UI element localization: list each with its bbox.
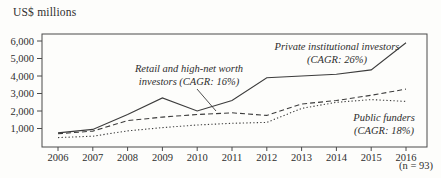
public-funders-series-label: Public funders (CAGR: 18%) [353,111,415,137]
x-tick-label: 2013 [291,152,312,163]
x-tick-label: 2012 [256,152,277,163]
chart-canvas: 1,0002,0003,0004,0005,0006,0002006200720… [0,0,441,178]
y-tick-label: 4,000 [10,71,34,82]
series-label-line: Private institutional investors [275,40,400,53]
x-tick-label: 2006 [48,152,69,163]
x-tick-label: 2009 [152,152,173,163]
series-label-line: investors (CAGR: 16%) [135,75,243,88]
series-label-line: (CAGR: 18%) [353,124,415,137]
x-tick-label: 2007 [82,152,103,163]
x-tick-label: 2014 [326,152,348,163]
y-tick-label: 3,000 [10,88,34,99]
x-tick-label: 2011 [222,152,243,163]
y-tick-label: 1,000 [10,123,34,134]
chart-figure: US$ millions 1,0002,0003,0004,0005,0006,… [0,0,441,178]
x-tick-label: 2010 [187,152,208,163]
y-tick-label: 5,000 [10,53,34,64]
series-label-line: Retail and high-net worth [135,62,243,75]
private-investors-series-label: Private institutional investors (CAGR: 2… [275,40,400,66]
y-tick-label: 2,000 [10,106,34,117]
x-tick-label: 2015 [361,152,382,163]
y-tick-label: 6,000 [10,36,34,47]
retail-investors-series-label: Retail and high-net worth investors (CAG… [135,62,243,88]
series-label-line: (CAGR: 26%) [275,53,400,66]
x-tick-label: 2008 [117,152,138,163]
series-label-line: Public funders [353,111,415,124]
sample-size-note: (n = 93) [399,160,433,171]
